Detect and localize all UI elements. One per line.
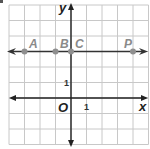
y-tick-label-1: 1	[64, 79, 69, 88]
point-label-p: P	[124, 38, 132, 50]
point-label-b: B	[60, 38, 69, 50]
x-tick-label-1: 1	[84, 103, 89, 112]
y-axis-down-arrow-icon	[68, 140, 74, 147]
grid-lines	[9, 5, 149, 145]
point-b	[53, 49, 59, 55]
origin-label: O	[58, 101, 68, 114]
point-label-a: A	[29, 38, 38, 50]
graph-svg	[0, 0, 150, 149]
y-axis-up-arrow-icon	[68, 3, 74, 10]
coordinate-plane: y x O 1 1 A B C P	[0, 0, 150, 149]
point-label-c: C	[75, 38, 84, 50]
x-axis-left-arrow-icon	[9, 95, 16, 101]
x-axis-label: x	[139, 100, 146, 113]
y-axis-label: y	[59, 1, 66, 14]
point-a	[22, 49, 28, 55]
axes	[9, 3, 148, 147]
